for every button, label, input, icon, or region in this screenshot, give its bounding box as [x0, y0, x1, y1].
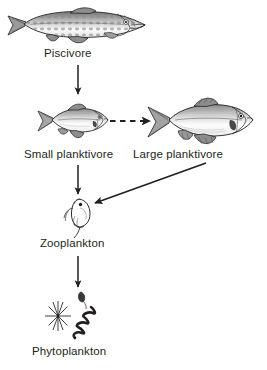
- node-label-large-planktivore: Large planktivore: [133, 148, 223, 160]
- food-web-arrows: [0, 0, 267, 370]
- food-web-diagram: Piscivore Small planktivore Large plankt…: [0, 0, 267, 370]
- node-label-small-planktivore: Small planktivore: [24, 148, 113, 160]
- edge-large-planktivore-to-zooplankton: [95, 163, 206, 203]
- node-label-phytoplankton: Phytoplankton: [32, 345, 106, 357]
- node-label-zooplankton: Zooplankton: [40, 237, 104, 249]
- node-label-piscivore: Piscivore: [44, 47, 92, 59]
